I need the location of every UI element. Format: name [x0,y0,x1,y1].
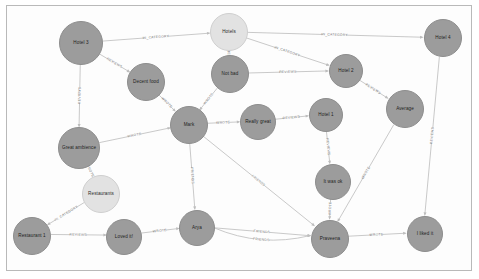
graph-node-hotel3[interactable]: Hotel 3 [59,21,103,65]
graph-node-label: Praveena [320,237,340,242]
graph-node-hotel4[interactable]: Hotel 4 [424,19,462,57]
graph-edge[interactable]: REVIEWS [423,57,439,216]
graph-edge[interactable]: FRIENDS [214,228,311,237]
edge-label: FRIENDS [251,174,267,188]
graph-edge[interactable]: REVIEWS [51,232,107,237]
edge-label: WROTE [216,120,230,125]
edge-label: REVIEWS [279,70,297,74]
graph-node-lovedit[interactable]: Loved it! [106,219,142,255]
graph-node-hotel2[interactable]: Hotel 2 [329,54,363,88]
graph-edge[interactable]: IN_CATEGORY [103,32,211,41]
graph-node-hotels[interactable]: Hotels [210,13,248,51]
edge-label: WROTE [328,201,333,215]
graph-edge[interactable]: WROTE [327,199,332,220]
graph-edge[interactable]: REVIEWS [275,114,310,120]
graph-node-label: Hotel 3 [73,41,88,46]
graph-node-average[interactable]: Average [386,90,424,128]
graph-node-label: Mark [184,123,195,128]
graph-node-label: Hotel 4 [435,36,450,41]
graph-edge[interactable]: WROTE [141,227,180,234]
graph-node-ilikedit[interactable]: I liked it [407,216,443,252]
graph-node-label: Really great [245,120,271,125]
edge-label: WROTE [153,228,168,234]
graph-edge[interactable]: IN_CATEGORY [247,32,424,39]
graph-node-arya[interactable]: Arya [179,210,215,246]
edge-label: REVIEWS [429,126,435,144]
graph-node-notbad[interactable]: Not bad [211,55,249,93]
graph-node-label: Restaurant 1 [18,234,46,239]
graph-edge[interactable]: WROTE [348,232,407,238]
graph-edge[interactable]: FRIENDS [189,143,196,210]
graph-edge[interactable]: WROTE [159,95,177,113]
edge-label: REVIEWS [77,86,81,104]
graph-node-label: Loved it! [115,235,133,240]
graph-node-label: Restaurants [88,192,114,197]
graph-edge[interactable]: REVIEWS [77,65,82,128]
graph-node-label: Hotel 1 [318,113,333,118]
graph-edge[interactable]: REVIEWS [248,69,329,74]
graph-node-greatambience[interactable]: Great ambience [58,127,100,169]
graph-node-itwasok[interactable]: It was ok [315,164,351,200]
graph-node-praveena[interactable]: Praveena [311,220,349,258]
graph-edge[interactable]: REVIEWS [99,54,131,74]
graph-edge[interactable]: WROTE [99,126,171,142]
graph-node-label: Hotel 2 [338,69,353,74]
graph-edge[interactable]: WROTE [207,120,240,125]
graph-edge[interactable]: FRIENDS [203,136,316,227]
graph-node-label: I liked it [417,232,434,237]
graph-node-decentfood[interactable]: Decent food [127,63,165,101]
edge-label: IN_CATEGORY [274,45,301,57]
graph-node-label: Average [396,107,414,112]
graph-canvas[interactable]: IN_CATEGORYREVIEWSREVIEWSIN_CATEGORYIN_C… [6,5,472,271]
edge-label: WROTE [161,96,174,109]
graph-node-reallygreat[interactable]: Really great [240,104,276,140]
graph-node-label: Decent food [133,80,159,85]
graph-node-label: It was ok [323,180,342,185]
edge-label: WROTE [369,232,383,237]
graph-visualization-app: IN_CATEGORYREVIEWSREVIEWSIN_CATEGORYIN_C… [0,0,479,279]
graph-node-restaurants[interactable]: Restaurants [82,175,120,213]
edge-label: REVIEWS [106,57,123,70]
graph-node-label: Great ambience [62,146,96,151]
graph-node-label: Hotels [222,30,236,35]
graph-edge[interactable]: IN_CATEGORY [46,202,84,226]
graph-node-label: Not bad [222,72,239,77]
graph-edge[interactable]: IN_CATEGORY [246,38,330,67]
graph-edge[interactable]: WROTE [198,88,217,111]
edge-label: REVIEWS [70,233,88,237]
graph-edge[interactable]: REVIEWS [325,131,331,164]
graph-edge[interactable]: REVIEWS [359,80,390,100]
graph-node-mark[interactable]: Mark [170,106,208,144]
graph-node-hotel1[interactable]: Hotel 1 [309,98,343,132]
edge-label: REVIEWS [365,82,382,95]
graph-node-restaurant1[interactable]: Restaurant 1 [13,217,51,255]
edge-label: WROTE [361,165,372,179]
edge-label: IN_CATEGORY [54,204,79,221]
graph-node-label: Arya [192,226,202,231]
edge-label: WROTE [203,92,215,106]
edge-label: IN_CATEGORY [321,32,348,37]
